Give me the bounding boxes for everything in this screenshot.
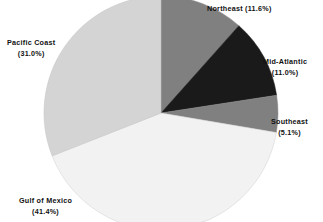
pie-label-southeast: Southeast (5.1%) — [271, 117, 308, 138]
pie-label-mid-atlantic: Mid-Atlantic (11.0%) — [263, 57, 307, 78]
pie-chart-screenshot: Northeast (11.6%) Mid-Atlantic (11.0%) S… — [0, 0, 323, 222]
pie-label-southeast-name: Southeast — [271, 117, 308, 128]
pie-label-gulf-of-mexico-name: Gulf of Mexico — [19, 196, 72, 207]
pie-chart-graphic — [0, 0, 323, 222]
pie-label-southeast-percent: (5.1%) — [271, 128, 308, 139]
pie-label-pacific-coast-percent: (31.0%) — [7, 49, 55, 60]
pie-label-mid-atlantic-name: Mid-Atlantic — [263, 57, 307, 68]
pie-label-gulf-of-mexico-percent: (41.4%) — [19, 207, 72, 218]
pie-label-pacific-coast: Pacific Coast (31.0%) — [7, 38, 55, 59]
pie-slices — [44, 0, 278, 222]
pie-label-northeast-percent: (11.6%) — [245, 4, 272, 13]
pie-label-northeast: Northeast (11.6%) — [207, 4, 272, 15]
pie-label-mid-atlantic-percent: (11.0%) — [263, 68, 307, 79]
pie-label-northeast-name: Northeast — [207, 4, 243, 13]
pie-label-gulf-of-mexico: Gulf of Mexico (41.4%) — [19, 196, 72, 217]
pie-label-pacific-coast-name: Pacific Coast — [7, 38, 55, 49]
